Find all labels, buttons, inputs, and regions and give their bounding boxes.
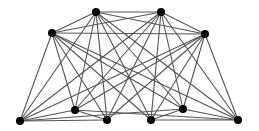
edge-C-H bbox=[52, 33, 151, 120]
edge-D-G bbox=[107, 34, 205, 120]
edge-A-G bbox=[96, 12, 107, 120]
node-A bbox=[92, 8, 100, 16]
edge-B-D bbox=[161, 12, 205, 34]
node-D bbox=[201, 30, 209, 38]
graph-diagram bbox=[0, 0, 259, 131]
node-B bbox=[157, 8, 165, 16]
edges-group bbox=[20, 12, 238, 121]
node-E bbox=[16, 117, 24, 125]
node-J bbox=[234, 116, 242, 124]
node-C bbox=[48, 29, 56, 37]
node-G bbox=[103, 116, 111, 124]
edge-B-J bbox=[161, 12, 238, 120]
edge-A-C bbox=[52, 12, 96, 33]
node-F bbox=[71, 106, 79, 114]
edge-C-D bbox=[52, 33, 205, 34]
node-H bbox=[147, 116, 155, 124]
node-I bbox=[179, 105, 187, 113]
